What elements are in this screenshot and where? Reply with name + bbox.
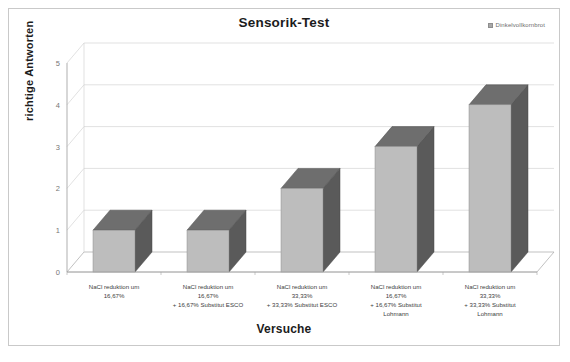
x-axis-title: Versuche [9,322,559,336]
y-axis-title: richtige Antworten [23,1,35,121]
chart-title: Sensorik-Test [9,15,559,30]
legend-swatch-icon [488,23,493,28]
legend-label: Dinkelvollkornbrot [496,22,546,28]
chart-frame: Sensorik-Test Dinkelvollkornbrot richtig… [8,8,560,346]
chart-legend: Dinkelvollkornbrot [488,22,546,28]
